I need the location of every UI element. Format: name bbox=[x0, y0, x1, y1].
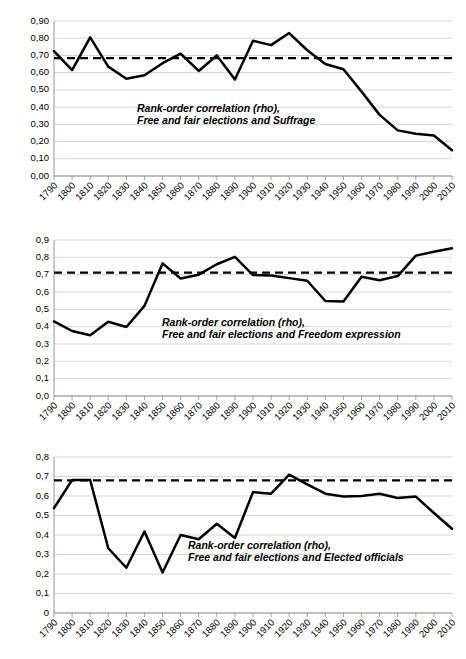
annotation-line-1: Rank-order correlation (rho), bbox=[188, 539, 331, 551]
ytick-labels-group: 0,00,10,20,30,40,50,60,70,80,9 bbox=[36, 234, 49, 401]
xtick-label: 2010 bbox=[435, 400, 458, 423]
ytick-label: 0,80 bbox=[31, 32, 50, 43]
ytick-label: 0,5 bbox=[36, 509, 49, 520]
ytick-labels-group: 00,10,20,30,40,50,60,70,8 bbox=[36, 451, 49, 618]
xtick-label: 1950 bbox=[326, 400, 349, 423]
xtick-label: 1870 bbox=[181, 400, 204, 423]
xtick-label: 1880 bbox=[200, 180, 223, 203]
chart-freedom-expression-svg: 0,00,10,20,30,40,50,60,70,80,9 179018001… bbox=[0, 218, 466, 439]
xtick-label: 1930 bbox=[290, 617, 313, 640]
xtick-labels-group: 1790180018101820183018401850186018701880… bbox=[37, 400, 458, 423]
ytick-label: 0 bbox=[44, 607, 49, 618]
xtick-label: 1910 bbox=[254, 180, 277, 203]
xtick-label: 1830 bbox=[109, 400, 132, 423]
xtick-label: 1790 bbox=[37, 617, 60, 640]
data-line-group bbox=[54, 33, 452, 150]
xtick-label: 1900 bbox=[236, 617, 259, 640]
ytick-label: 0,1 bbox=[36, 372, 49, 383]
xtick-label: 1810 bbox=[73, 180, 96, 203]
xtick-label: 1840 bbox=[127, 400, 150, 423]
xtick-label: 1920 bbox=[272, 617, 295, 640]
ytick-label: 0,4 bbox=[36, 529, 49, 540]
xtick-label: 1860 bbox=[163, 617, 186, 640]
xtick-label: 1840 bbox=[127, 617, 150, 640]
xtick-label: 1840 bbox=[127, 180, 150, 203]
xtick-label: 1790 bbox=[37, 400, 60, 423]
chart-suffrage-svg: 0,000,100,200,300,400,500,600,700,800,90… bbox=[0, 0, 466, 218]
xtick-label: 1850 bbox=[145, 617, 168, 640]
xtick-label: 1820 bbox=[91, 400, 114, 423]
chart-suffrage: 0,000,100,200,300,400,500,600,700,800,90… bbox=[0, 0, 466, 218]
figure-page: 0,000,100,200,300,400,500,600,700,800,90… bbox=[0, 0, 466, 659]
xtick-label: 1960 bbox=[344, 617, 367, 640]
ytick-label: 0,6 bbox=[36, 286, 49, 297]
xtick-label: 1790 bbox=[37, 180, 60, 203]
xtick-label: 1880 bbox=[200, 617, 223, 640]
ytick-label: 0,50 bbox=[31, 83, 50, 94]
xtick-label: 1970 bbox=[362, 400, 385, 423]
xtick-label: 1890 bbox=[218, 400, 241, 423]
xtick-label: 1990 bbox=[399, 180, 422, 203]
ytick-label: 0,7 bbox=[36, 268, 49, 279]
ytick-label: 0,4 bbox=[36, 320, 49, 331]
gridlines-group bbox=[54, 21, 452, 176]
ytick-label: 0,40 bbox=[31, 101, 50, 112]
xtick-label: 1980 bbox=[380, 617, 403, 640]
xtick-label: 1960 bbox=[344, 180, 367, 203]
ytick-label: 0,30 bbox=[31, 118, 50, 129]
ytick-label: 0,8 bbox=[36, 251, 49, 262]
ytick-label: 0,00 bbox=[31, 170, 50, 181]
xtick-label: 1990 bbox=[399, 400, 422, 423]
xtick-label: 1870 bbox=[181, 180, 204, 203]
data-series-line bbox=[54, 33, 452, 150]
xtick-label: 1960 bbox=[344, 400, 367, 423]
xtick-label: 1990 bbox=[399, 617, 422, 640]
axes-group bbox=[54, 21, 452, 180]
xtick-label: 1980 bbox=[380, 180, 403, 203]
ytick-label: 0,90 bbox=[31, 15, 50, 26]
ytick-label: 0,7 bbox=[36, 470, 49, 481]
chart-elected-officials-svg: 00,10,20,30,40,50,60,70,8 17901800181018… bbox=[0, 439, 466, 659]
xtick-labels-group: 1790180018101820183018401850186018701880… bbox=[37, 180, 458, 203]
xtick-label: 1950 bbox=[326, 617, 349, 640]
xtick-label: 1860 bbox=[163, 400, 186, 423]
xtick-label: 1800 bbox=[55, 617, 78, 640]
chart-elected-officials: 00,10,20,30,40,50,60,70,8 17901800181018… bbox=[0, 439, 466, 659]
annotation-group: Rank-order correlation (rho),Free and fa… bbox=[137, 102, 316, 126]
xtick-label: 1970 bbox=[362, 180, 385, 203]
xtick-labels-group: 1790180018101820183018401850186018701880… bbox=[37, 617, 458, 640]
xtick-label: 1800 bbox=[55, 180, 78, 203]
annotation-line-2: Free and fair elections and Freedom expr… bbox=[162, 328, 401, 340]
xtick-label: 2000 bbox=[417, 617, 440, 640]
xtick-label: 2000 bbox=[417, 400, 440, 423]
ytick-label: 0,20 bbox=[31, 135, 50, 146]
annotation-line-1: Rank-order correlation (rho), bbox=[162, 316, 305, 328]
ytick-labels-group: 0,000,100,200,300,400,500,600,700,800,90 bbox=[31, 15, 50, 181]
annotation-line-2: Free and fair elections and Suffrage bbox=[137, 114, 316, 126]
ytick-label: 0,5 bbox=[36, 303, 49, 314]
xtick-label: 2000 bbox=[417, 180, 440, 203]
chart-freedom-expression: 0,00,10,20,30,40,50,60,70,80,9 179018001… bbox=[0, 218, 466, 439]
ytick-label: 0,2 bbox=[36, 355, 49, 366]
ytick-label: 0,9 bbox=[36, 234, 49, 245]
xtick-label: 1830 bbox=[109, 180, 132, 203]
ytick-label: 0,2 bbox=[36, 568, 49, 579]
ytick-label: 0,3 bbox=[36, 338, 49, 349]
xtick-label: 1880 bbox=[200, 400, 223, 423]
ytick-label: 0,1 bbox=[36, 587, 49, 598]
xtick-label: 1890 bbox=[218, 617, 241, 640]
xtick-label: 1890 bbox=[218, 180, 241, 203]
xtick-label: 2010 bbox=[435, 617, 458, 640]
ytick-label: 0,6 bbox=[36, 490, 49, 501]
xtick-label: 1910 bbox=[254, 400, 277, 423]
xtick-label: 1980 bbox=[380, 400, 403, 423]
xtick-label: 1900 bbox=[236, 400, 259, 423]
xtick-label: 1850 bbox=[145, 400, 168, 423]
ytick-label: 0,60 bbox=[31, 66, 50, 77]
ytick-label: 0,10 bbox=[31, 152, 50, 163]
xtick-label: 1940 bbox=[308, 617, 331, 640]
ytick-label: 0,8 bbox=[36, 451, 49, 462]
xtick-label: 2010 bbox=[435, 180, 458, 203]
xtick-label: 1870 bbox=[181, 617, 204, 640]
xtick-label: 1970 bbox=[362, 617, 385, 640]
